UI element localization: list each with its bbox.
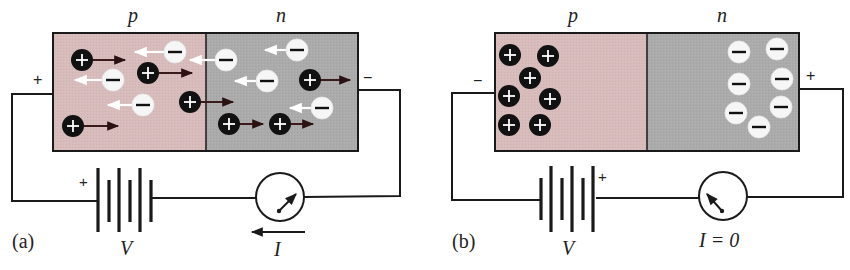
p-region-label: p	[566, 4, 578, 27]
n-region-label: n	[717, 4, 727, 26]
electron-carrier	[728, 41, 750, 63]
panel-a-forward-bias: p n + − + V I	[12, 4, 400, 260]
left-terminal-sign: −	[473, 72, 482, 89]
pn-junction-diagram: p n + − + V I	[0, 0, 850, 270]
electron-carrier	[748, 116, 770, 138]
n-region-label: n	[276, 4, 286, 26]
electron-carrier	[770, 96, 792, 118]
electron-carrier	[728, 73, 750, 95]
battery-icon	[98, 168, 151, 232]
ammeter-icon	[256, 173, 304, 221]
panel-label: (a)	[12, 230, 34, 253]
hole-carrier	[539, 88, 561, 110]
hole-carrier	[529, 114, 551, 136]
electron-carrier	[766, 38, 788, 60]
battery-plus-sign: +	[598, 168, 607, 185]
voltage-label: V	[120, 237, 135, 259]
electron-carrier	[725, 102, 747, 124]
right-terminal-sign: +	[806, 67, 815, 84]
hole-carrier	[498, 85, 520, 107]
battery-icon	[541, 166, 593, 232]
panel-b-reverse-bias: p n − + + V I = 0 (b)	[452, 4, 843, 259]
hole-carrier	[519, 67, 541, 89]
battery-plus-sign: +	[79, 173, 88, 190]
left-terminal-sign: +	[33, 71, 42, 88]
hole-carrier	[499, 44, 521, 66]
hole-carrier	[498, 114, 520, 136]
p-region-label: p	[126, 4, 138, 27]
current-label: I = 0	[698, 229, 739, 251]
panel-label: (b)	[452, 230, 475, 253]
voltage-label: V	[562, 237, 577, 259]
right-terminal-sign: −	[363, 69, 372, 86]
ammeter-icon	[699, 172, 747, 220]
electron-carrier	[771, 68, 793, 90]
hole-carrier	[537, 45, 559, 67]
current-label: I	[273, 238, 282, 260]
